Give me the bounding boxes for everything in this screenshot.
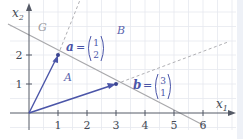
vector-diagram: 1 2 3 4 5 6 1 2 x1 x2 G B A a = 1 2 b = … [0, 0, 243, 139]
y-tick-label-2: 2 [16, 49, 23, 62]
region-label-B: B [116, 24, 125, 37]
line-G-label: G [38, 21, 47, 34]
y-axis-label: x2 [12, 6, 24, 22]
y-tick-label-1: 1 [16, 78, 23, 91]
x-tick-label-1: 1 [55, 119, 62, 132]
svg-text:=: = [143, 79, 152, 92]
svg-text:a: a [66, 40, 74, 54]
svg-text:3: 3 [160, 76, 166, 86]
x-tick-label-4: 4 [142, 119, 149, 132]
y-axis [26, 3, 32, 130]
grid [10, 0, 236, 130]
svg-text:2: 2 [93, 50, 99, 60]
point-a [56, 53, 60, 57]
svg-text:=: = [76, 41, 85, 54]
x-tick-label-5: 5 [171, 119, 178, 132]
x-axis [10, 110, 236, 116]
svg-text:1: 1 [93, 38, 99, 48]
x-tick-label-3: 3 [113, 119, 120, 132]
x-axis-label: x1 [216, 97, 228, 113]
x-tick-label-6: 6 [200, 119, 207, 132]
vector-b-label: b = 3 1 [133, 74, 171, 99]
x-tick-label-2: 2 [84, 119, 91, 132]
svg-text:1: 1 [160, 88, 166, 98]
svg-text:b: b [133, 78, 141, 92]
point-b [114, 82, 118, 86]
region-label-A: A [63, 71, 72, 84]
